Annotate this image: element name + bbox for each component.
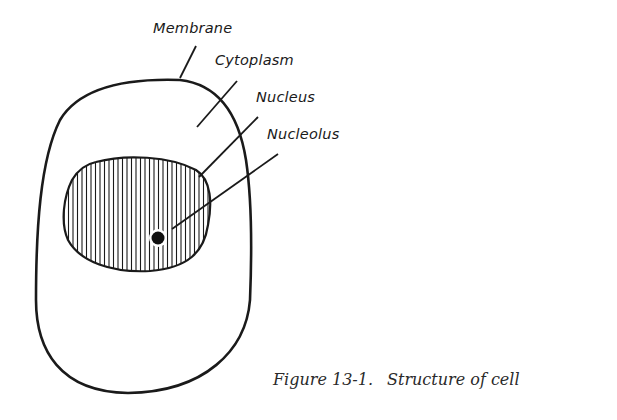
nucleus-hatching — [64, 150, 213, 280]
membrane-leader-line — [180, 46, 196, 78]
figure-title: Structure of cell — [387, 370, 520, 389]
figure-number: Figure 13-1. — [273, 370, 373, 389]
nucleus-leader-line — [199, 117, 258, 177]
nucleolus-label: Nucleolus — [267, 126, 339, 142]
membrane-label: Membrane — [153, 20, 232, 36]
nucleus-label: Nucleus — [256, 89, 315, 105]
figure-caption: Figure 13-1.Structure of cell — [273, 370, 520, 389]
cytoplasm-label: Cytoplasm — [215, 52, 294, 68]
cell-diagram — [0, 0, 617, 420]
nucleolus-dot — [152, 232, 165, 245]
nucleus-outline — [64, 157, 211, 271]
